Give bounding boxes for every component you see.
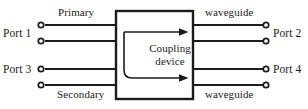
coupling-device-label-line2: device (139, 55, 201, 68)
coupling-device-label-line1: Coupling (139, 42, 201, 55)
port-3-label: Port 3 (3, 63, 31, 75)
terminal-port4-lower (263, 82, 268, 87)
primary-line-label: Primary (58, 6, 94, 18)
waveguide-top-label: waveguide (205, 6, 254, 18)
terminal-port1-upper (38, 22, 43, 27)
terminal-port4-upper (263, 66, 268, 71)
secondary-line-label: Secondary (57, 88, 104, 100)
terminal-port2-upper (263, 22, 268, 27)
coupling-device-label: Coupling device (139, 42, 201, 67)
coupler-block-diagram: Port 1 Port 3 Port 2 Port 4 Primary Seco… (0, 0, 308, 109)
port-1-label: Port 1 (3, 27, 31, 39)
port-2-label: Port 2 (273, 27, 301, 39)
terminal-port1-lower (38, 38, 43, 43)
terminal-port2-lower (263, 38, 268, 43)
terminal-port3-upper (38, 66, 43, 71)
waveguide-bottom-label: waveguide (205, 88, 254, 100)
port-4-label: Port 4 (273, 63, 301, 75)
left-port-leads (45, 25, 116, 85)
terminal-port3-lower (38, 82, 43, 87)
right-port-leads (193, 25, 263, 85)
